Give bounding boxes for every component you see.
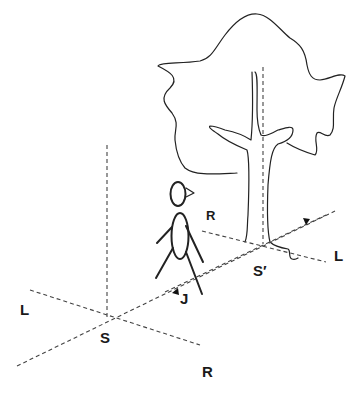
tree-trunk-left — [209, 72, 252, 242]
axis-LR-near — [30, 290, 200, 345]
label-L-far: L — [334, 248, 343, 263]
person-leg-left — [156, 248, 173, 278]
person-arm-left — [157, 227, 172, 243]
axis-LR-far — [202, 231, 326, 262]
label-S-prime: S′ — [253, 263, 267, 278]
label-R-far: R — [206, 209, 215, 222]
diagram-canvas — [0, 0, 360, 396]
person-nose — [186, 188, 194, 197]
tree-canopy — [158, 14, 345, 174]
label-S: S — [100, 330, 110, 345]
person-leg-right — [186, 252, 202, 294]
person-head — [171, 182, 186, 206]
label-R-near: R — [202, 364, 213, 379]
axis-S-S-prime — [17, 211, 335, 366]
person — [156, 182, 203, 294]
label-J: J — [180, 291, 188, 306]
label-L-near: L — [20, 302, 29, 317]
